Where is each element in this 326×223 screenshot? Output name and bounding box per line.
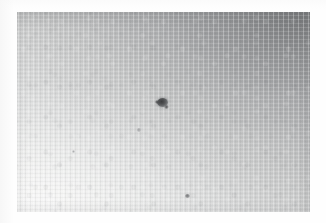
tone-vignette xyxy=(17,12,310,212)
photograph xyxy=(17,12,310,212)
grain-mottle xyxy=(17,12,310,212)
faint-small-dot xyxy=(137,128,141,132)
tone-dark-corner xyxy=(17,12,310,212)
grain-horizontal xyxy=(17,12,310,212)
tiny-speck-upper-right xyxy=(246,38,249,41)
lower-small-dot xyxy=(185,194,190,198)
grain-vertical xyxy=(17,12,310,212)
tone-highlight xyxy=(17,12,310,212)
scan-page xyxy=(0,0,326,223)
tiny-speck-mid-left xyxy=(72,150,75,153)
primary-dark-blob xyxy=(157,98,168,107)
